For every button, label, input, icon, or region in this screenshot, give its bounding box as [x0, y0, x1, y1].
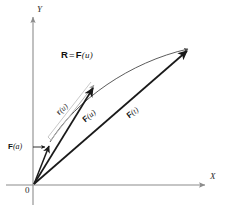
space-curve: [50, 49, 188, 142]
label-Fa-arg: (a): [13, 142, 22, 151]
label-vector-F-a: F(a): [8, 143, 22, 151]
vector-r-u-tail-cap: [48, 137, 51, 140]
equation-equals: =: [68, 49, 76, 60]
x-axis-label: X: [210, 172, 216, 181]
origin-label: 0: [25, 186, 30, 195]
figure-canvas: [0, 0, 227, 219]
equation-bold-R: R: [61, 49, 68, 60]
y-axis-label: Y: [37, 5, 42, 14]
equation-arg-close: ): [90, 50, 93, 60]
vector-function-figure: Y X 0 R=F(u) r(u) F(u) F(t) F(a): [0, 0, 227, 219]
equation-R-equals-F-u: R=F(u): [61, 50, 93, 60]
vector-F-t: [34, 51, 187, 184]
